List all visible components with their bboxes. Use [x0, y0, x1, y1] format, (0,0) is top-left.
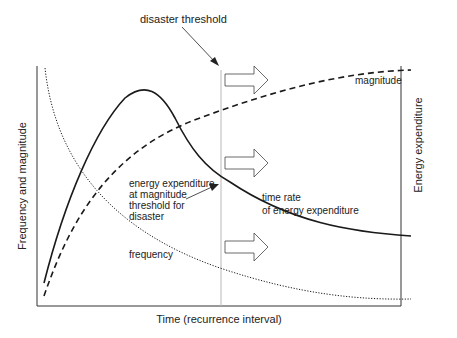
energy-threshold-label-line3: threshold for: [129, 200, 185, 211]
energy-threshold-label-line4: disaster: [129, 211, 165, 222]
disaster-threshold-label: disaster threshold: [140, 13, 227, 25]
threshold-pointer-line: [182, 27, 215, 62]
energy-threshold-label-line2: at magnitude: [129, 189, 187, 200]
magnitude-curve: [44, 70, 411, 296]
x-axis-label: Time (recurrence interval): [156, 313, 282, 325]
energy-frequency-diagram: disaster threshold magnitude frequency t…: [0, 0, 457, 338]
energy-expenditure-curve: [44, 90, 411, 283]
frequency-label: frequency: [129, 249, 173, 260]
energy-threshold-label-line1: energy expenditure: [129, 178, 215, 189]
frequency-curve: [45, 68, 411, 299]
time-rate-label-line2: of energy expenditure: [262, 205, 359, 216]
magnitude-label: magnitude: [355, 75, 402, 86]
time-rate-label-line1: time rate: [262, 192, 301, 203]
arrow-icon: [225, 233, 268, 261]
arrow-icon: [225, 149, 268, 177]
arrow-icon: [225, 66, 268, 94]
y-right-axis-label: Energy expenditure: [412, 97, 424, 192]
y-left-axis-label: Frequency and magnitude: [16, 122, 28, 250]
